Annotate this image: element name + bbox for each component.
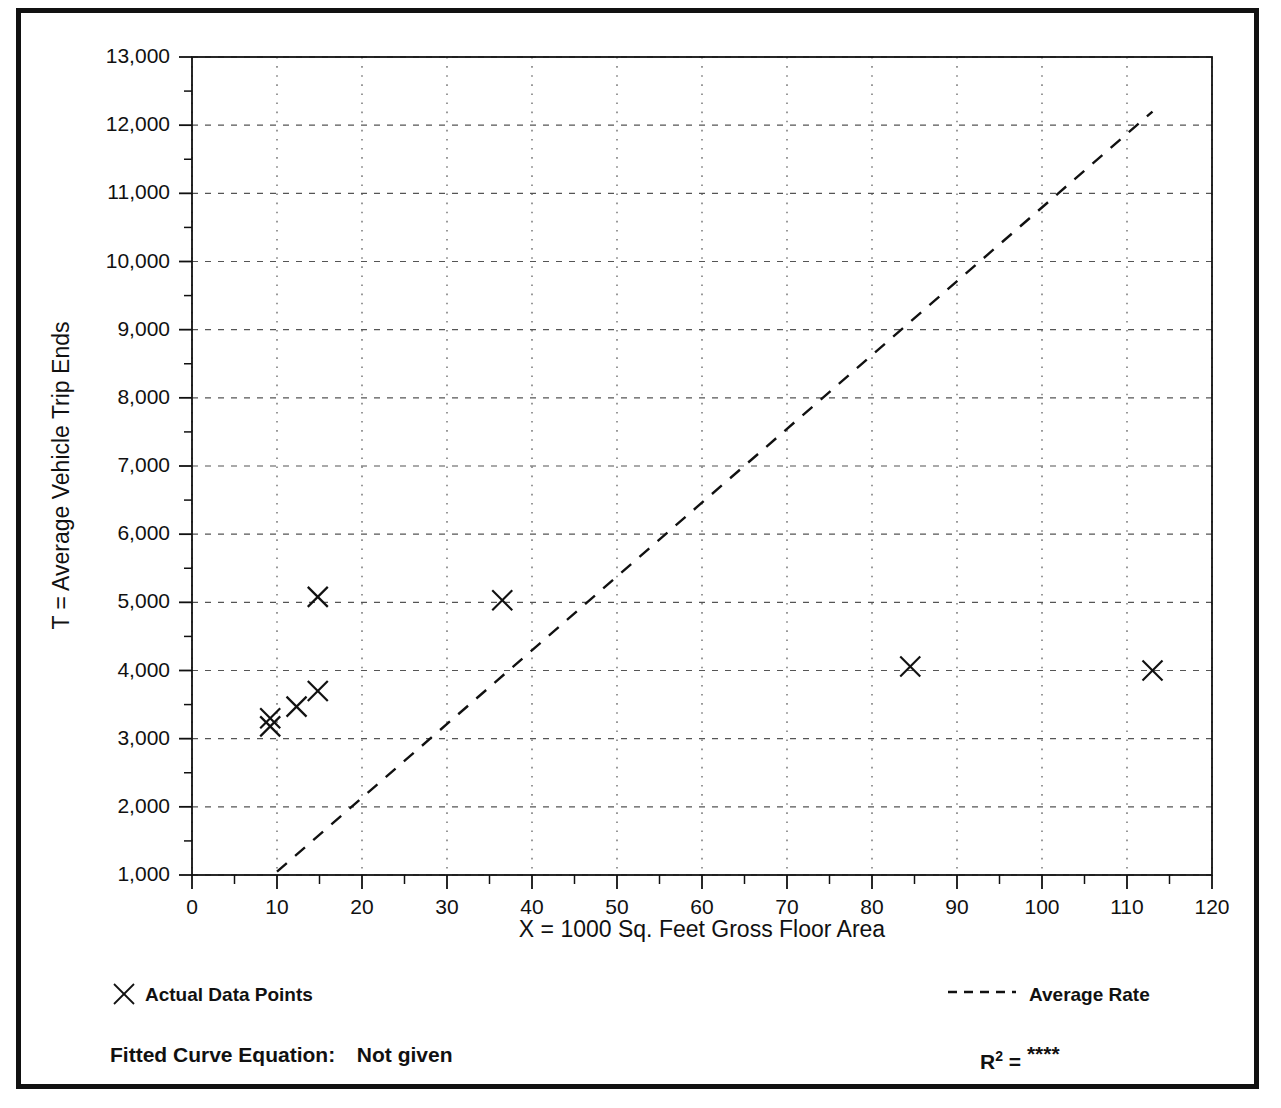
data-point-marker [260,708,280,728]
data-point-marker [260,716,280,736]
axis-ticks [179,57,1212,889]
data-point-marker [287,697,307,717]
y-tick-label: 4,000 [0,658,170,682]
data-point-marker [1143,661,1163,681]
grid-lines [192,57,1212,875]
x-tick-label: 0 [152,895,232,919]
x-tick-label: 30 [407,895,487,919]
actual-data-points [260,587,1162,737]
x-tick-label: 10 [237,895,317,919]
x-tick-label: 80 [832,895,912,919]
y-tick-label: 12,000 [0,112,170,136]
x-tick-label: 40 [492,895,572,919]
chart-page: T = Average Vehicle Trip Ends X = 1000 S… [0,0,1281,1108]
average-rate-line [277,112,1153,872]
y-tick-label: 3,000 [0,726,170,750]
y-tick-label: 2,000 [0,794,170,818]
y-tick-label: 1,000 [0,862,170,886]
plot-frame [192,57,1212,875]
fitted-curve-equation: Fitted Curve Equation: Not given [110,1043,453,1067]
average-rate-trendline [277,112,1153,872]
r-squared-label: R [980,1050,995,1073]
y-tick-label: 9,000 [0,317,170,341]
y-tick-label: 5,000 [0,589,170,613]
y-tick-label: 11,000 [0,180,170,204]
axis-lines [192,57,1212,875]
x-tick-label: 100 [1002,895,1082,919]
x-axis-title: X = 1000 Sq. Feet Gross Floor Area [192,916,1212,943]
x-tick-label: 120 [1172,895,1252,919]
data-point-marker [492,590,512,610]
r-squared-annotation: R2 = **** [980,1042,1060,1074]
y-tick-label: 7,000 [0,453,170,477]
y-tick-label: 6,000 [0,521,170,545]
x-tick-label: 110 [1087,895,1167,919]
r-squared-exponent: 2 [995,1048,1003,1064]
x-marker-icon [110,980,138,1008]
x-tick-label: 90 [917,895,997,919]
x-tick-label: 20 [322,895,402,919]
y-tick-label: 13,000 [0,44,170,68]
x-tick-label: 60 [662,895,742,919]
r-squared-equals: = [1009,1050,1021,1073]
data-point-marker [900,656,920,676]
fitted-curve-value: Not given [357,1043,453,1066]
legend-label-actual-data-points: Actual Data Points [145,984,313,1006]
r-squared-value: **** [1027,1042,1060,1065]
x-tick-label: 50 [577,895,657,919]
figure-area: T = Average Vehicle Trip Ends X = 1000 S… [0,0,1281,1108]
dashed-line-icon [948,990,1016,994]
legend-label-average-rate: Average Rate [1029,984,1150,1006]
x-tick-label: 70 [747,895,827,919]
y-tick-label: 8,000 [0,385,170,409]
y-tick-label: 10,000 [0,249,170,273]
data-point-marker [308,587,328,607]
data-point-marker [308,681,328,701]
fitted-curve-label: Fitted Curve Equation: [110,1043,335,1066]
